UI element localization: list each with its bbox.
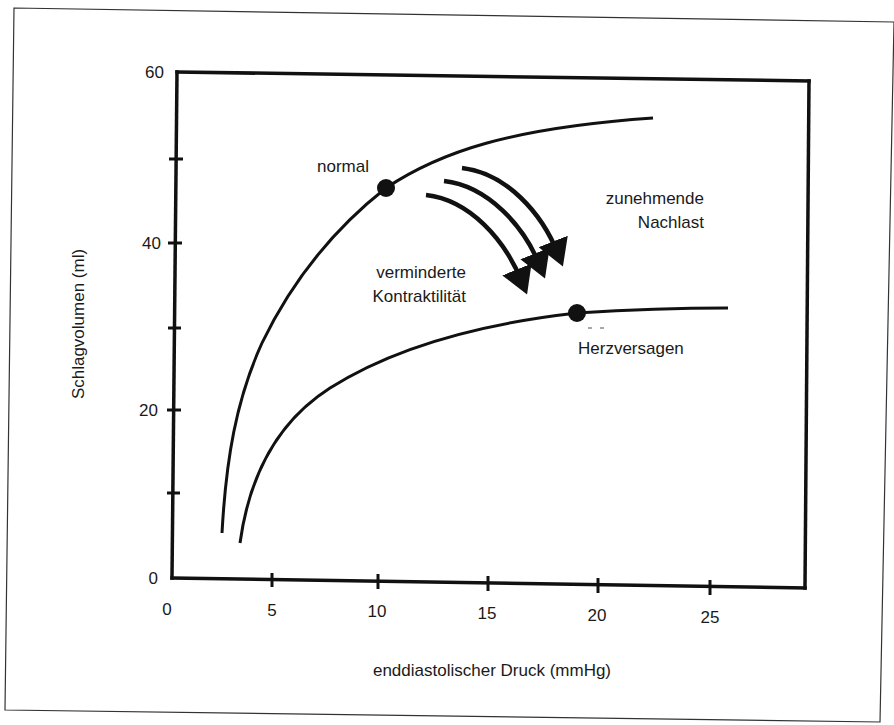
- failure-point: [568, 304, 586, 322]
- x-axis-title: enddiastolischer Druck (mmHg): [373, 661, 611, 680]
- y-tick-label-40: 40: [142, 234, 161, 253]
- page-border: [5, 8, 894, 722]
- normal-label: normal: [317, 157, 369, 176]
- x-tick-label-10: 10: [368, 602, 387, 621]
- normal-point: [377, 179, 395, 197]
- y-axis-title: Schlagvolumen (ml): [69, 249, 88, 399]
- chart-figure: 60 40 20 0 0 5 10 15 20 25 enddiastolisc…: [0, 0, 894, 725]
- y-tick-labels: 60 40 20 0: [139, 63, 164, 588]
- arrow-3-icon: [462, 168, 558, 254]
- x-tick-label-0: 0: [162, 600, 171, 619]
- normal-curve: [222, 118, 653, 533]
- contractility-label-line1: verminderte: [376, 263, 466, 282]
- x-tick-labels: 0 5 10 15 20 25: [162, 600, 719, 627]
- y-axis: [172, 72, 177, 578]
- x-tick-label-25: 25: [701, 608, 720, 627]
- x-tick-label-20: 20: [588, 606, 607, 625]
- afterload-label-line1: zunehmende: [606, 189, 704, 208]
- failure-label: Herzversagen: [578, 339, 684, 358]
- y-tick-label-60: 60: [145, 63, 164, 82]
- contractility-label-line2: Kontraktilität: [372, 287, 466, 306]
- frame-top: [177, 72, 809, 81]
- x-tick-label-5: 5: [267, 601, 276, 620]
- arrow-2-icon: [444, 181, 540, 266]
- x-tick-label-15: 15: [478, 604, 497, 623]
- afterload-label-line2: Nachlast: [638, 213, 704, 232]
- y-tick-label-0: 0: [149, 569, 158, 588]
- frame-right: [805, 81, 809, 588]
- y-tick-label-20: 20: [139, 401, 158, 420]
